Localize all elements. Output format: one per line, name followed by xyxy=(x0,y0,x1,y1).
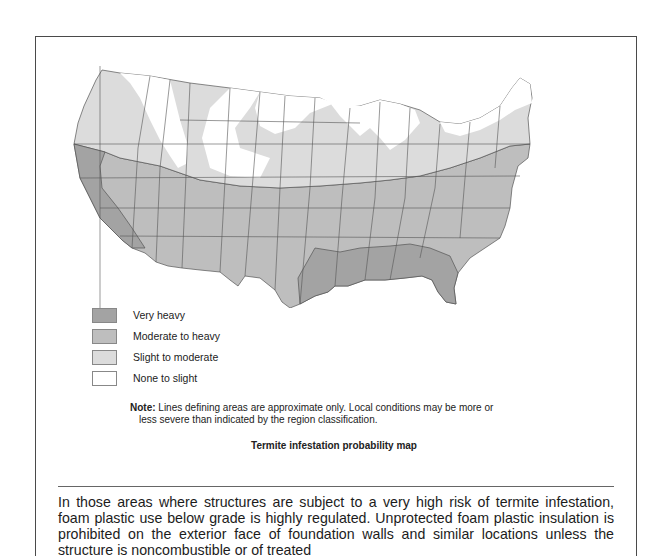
legend-swatch xyxy=(92,350,117,365)
legend-swatch xyxy=(92,308,117,323)
legend-label: None to slight xyxy=(133,372,197,384)
termite-map xyxy=(60,48,560,308)
note-line-2: less severe than indicated by the region… xyxy=(130,414,550,426)
legend-label: Slight to moderate xyxy=(133,351,218,363)
legend-item-none-to-slight: None to slight xyxy=(92,368,220,388)
note-line-1: Lines defining areas are approximate onl… xyxy=(156,402,494,413)
legend-swatch xyxy=(92,371,117,386)
legend-item-slight-to-moderate: Slight to moderate xyxy=(92,347,220,367)
body-paragraph: In those areas where structures are subj… xyxy=(58,494,614,558)
legend-label: Moderate to heavy xyxy=(133,330,220,342)
divider xyxy=(58,486,614,487)
legend-label: Very heavy xyxy=(133,309,185,321)
legend-item-moderate-to-heavy: Moderate to heavy xyxy=(92,326,220,346)
legend-item-very-heavy: Very heavy xyxy=(92,305,220,325)
note-label: Note: xyxy=(130,402,156,413)
map-note: Note: Lines defining areas are approxima… xyxy=(130,402,550,426)
map-legend: Very heavy Moderate to heavy Slight to m… xyxy=(92,305,220,389)
figure-caption: Termite infestation probability map xyxy=(0,440,668,451)
region-very-heavy-southeast xyxy=(298,244,458,304)
legend-swatch xyxy=(92,329,117,344)
